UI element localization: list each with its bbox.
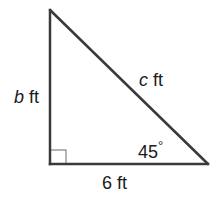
- label-angle-45: 45°: [138, 138, 163, 162]
- label-side-b: b ft: [14, 87, 39, 107]
- right-triangle-diagram: b ft c ft 45° 6 ft: [0, 0, 223, 206]
- angle-value: 45: [138, 142, 158, 162]
- side-c-hypotenuse: [50, 10, 208, 164]
- label-side-c: c ft: [139, 70, 163, 90]
- label-base: 6 ft: [102, 173, 127, 193]
- unit-ft: ft: [148, 70, 163, 90]
- unit-ft: ft: [24, 87, 39, 107]
- variable-c: c: [139, 70, 148, 90]
- variable-b: b: [14, 87, 24, 107]
- right-angle-marker: [50, 150, 66, 164]
- degree-symbol: °: [158, 138, 163, 153]
